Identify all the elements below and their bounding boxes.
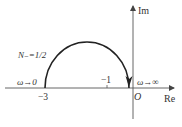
origin-label: O xyxy=(134,91,141,102)
imag-axis-label: Im xyxy=(138,5,149,16)
real-axis-label: Re xyxy=(164,93,176,104)
tick-label-minus-1: −1 xyxy=(101,75,111,85)
curve-arrow-icon xyxy=(126,76,133,87)
encirclement-label: N₋=1/2 xyxy=(17,50,47,60)
omega-end-label: ω→∞ xyxy=(137,77,159,87)
tick-label-minus-3: −3 xyxy=(38,92,48,102)
nyquist-diagram: Im O Re −3 −1 ω→0 ω→∞ N₋=1/2 xyxy=(0,0,182,127)
omega-start-label: ω→0 xyxy=(17,77,37,87)
nyquist-curve xyxy=(45,42,129,88)
